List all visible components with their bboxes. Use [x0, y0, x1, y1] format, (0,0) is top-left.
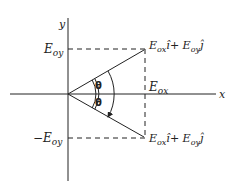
- e-ox-label: Eox: [148, 80, 168, 96]
- theta-upper-label: θ: [95, 80, 102, 91]
- polarization-diagram: y x Eoy −Eoy Eox Eoxî+ Eoyĵ Eoxî+ Eoyĵ θ…: [0, 0, 232, 187]
- e-oy-label: Eoy: [43, 42, 64, 58]
- x-axis-label: x: [219, 88, 226, 101]
- lower-vector-label: Eoxî+ Eoyĵ: [148, 132, 204, 147]
- y-axis-label: y: [58, 18, 66, 31]
- lower-vector: [68, 94, 144, 137]
- neg-e-oy-label: −Eoy: [33, 131, 63, 147]
- upper-vector: [68, 50, 144, 94]
- upper-vector-label: Eoxî+ Eoyĵ: [148, 39, 204, 54]
- theta-lower-label: θ: [95, 97, 102, 108]
